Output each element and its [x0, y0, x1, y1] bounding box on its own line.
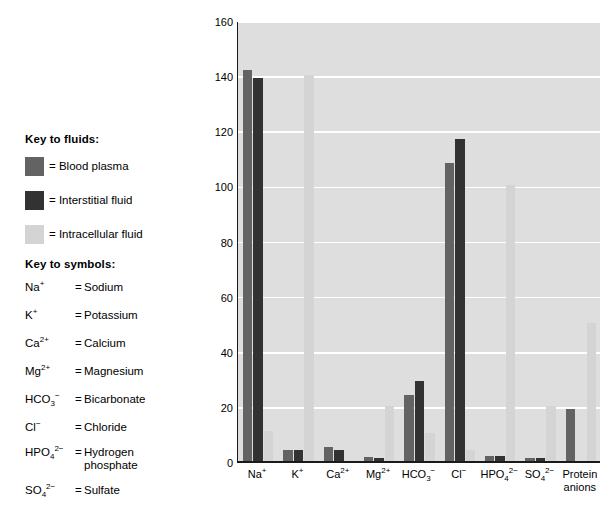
- legend-swatch-intracellular-fluid: [25, 225, 44, 244]
- symbol-row-bicarbonate: HCO3−=Bicarbonate: [25, 393, 190, 406]
- symbol-name: Potassium: [84, 309, 190, 322]
- bar: [485, 456, 495, 462]
- symbol-row-calcium: Ca2+=Calcium: [25, 337, 190, 350]
- x-tick-label: Proteinanions: [560, 468, 600, 493]
- symbol-name: Sulfate: [84, 484, 190, 497]
- y-tick-label: 60: [199, 292, 233, 304]
- x-tick-label: Ca2+: [318, 468, 358, 481]
- symbol-formula: K+: [25, 309, 75, 321]
- bar: [445, 163, 455, 461]
- gridline: [238, 187, 600, 189]
- symbol-equals: =: [75, 446, 84, 458]
- symbol-formula: SO42−: [25, 484, 75, 496]
- bar: [324, 447, 334, 461]
- y-tick-label: 40: [199, 347, 233, 359]
- x-tick-label: Na+: [237, 468, 277, 481]
- symbol-formula: HPO42−: [25, 446, 75, 458]
- y-axis-ticks: 020406080100120140160: [196, 22, 233, 463]
- x-tick-label: Mg2+: [358, 468, 398, 481]
- y-tick-label: 160: [199, 16, 233, 28]
- symbol-formula: Mg2+: [25, 365, 75, 377]
- bar: [506, 185, 516, 461]
- y-tick-label: 100: [199, 181, 233, 193]
- bar: [566, 409, 576, 461]
- symbol-equals: =: [75, 309, 84, 321]
- legend-label-blood-plasma: = Blood plasma: [49, 160, 129, 172]
- x-tick-label: Cl−: [439, 468, 479, 481]
- legend-swatch-interstitial-fluid: [25, 191, 44, 210]
- symbol-equals: =: [75, 337, 84, 349]
- symbol-name: Hydrogen phosphate: [84, 446, 190, 472]
- legend-item-interstitial-fluid: = Interstitial fluid: [25, 190, 132, 210]
- bar: [304, 75, 314, 461]
- symbol-formula: HCO3−: [25, 393, 75, 405]
- bar: [425, 433, 435, 461]
- gridline: [238, 352, 600, 354]
- bar: [283, 450, 293, 461]
- gridline: [238, 21, 600, 23]
- symbol-row-hydrogen-phosphate: HPO42−=Hydrogen phosphate: [25, 446, 190, 472]
- bar: [404, 395, 414, 461]
- symbol-equals: =: [75, 281, 84, 293]
- bar: [243, 70, 253, 461]
- plot-area: [237, 22, 600, 463]
- gridline: [238, 131, 600, 133]
- key-to-symbols-title: Key to symbols:: [25, 258, 115, 270]
- symbol-name: Sodium: [84, 281, 190, 294]
- y-tick-label: 0: [199, 457, 233, 469]
- legend-label-intracellular-fluid: = Intracellular fluid: [49, 228, 143, 240]
- symbol-equals: =: [75, 393, 84, 405]
- bar: [334, 450, 344, 461]
- bar: [525, 458, 535, 461]
- figure-root: Key to fluids: = Blood plasma= Interstit…: [0, 0, 608, 509]
- y-tick-label: 140: [199, 71, 233, 83]
- symbol-row-chloride: Cl−=Chloride: [25, 421, 190, 434]
- bar: [294, 450, 304, 461]
- bar: [385, 406, 395, 461]
- bar: [374, 458, 384, 461]
- symbol-row-potassium: K+=Potassium: [25, 309, 190, 322]
- bar: [466, 450, 476, 461]
- key-panel: Key to fluids: = Blood plasma= Interstit…: [0, 0, 196, 509]
- gridline: [238, 76, 600, 78]
- bar: [495, 456, 505, 462]
- legend-item-blood-plasma: = Blood plasma: [25, 156, 129, 176]
- symbol-row-magnesium: Mg2+=Magnesium: [25, 365, 190, 378]
- y-tick-label: 20: [199, 402, 233, 414]
- symbol-formula: Cl−: [25, 421, 75, 433]
- symbol-name: Chloride: [84, 421, 190, 434]
- legend-item-intracellular-fluid: = Intracellular fluid: [25, 224, 143, 244]
- x-tick-label: K+: [277, 468, 317, 481]
- bar: [546, 406, 556, 461]
- symbol-equals: =: [75, 484, 84, 496]
- bar: [455, 139, 465, 461]
- bar: [264, 431, 274, 461]
- y-tick-label: 120: [199, 126, 233, 138]
- symbol-row-sulfate: SO42−=Sulfate: [25, 484, 190, 497]
- bar: [253, 78, 263, 461]
- symbol-formula: Ca2+: [25, 337, 75, 349]
- bar: [587, 323, 597, 461]
- symbol-name: Calcium: [84, 337, 190, 350]
- bar: [415, 381, 425, 461]
- x-tick-label: HPO42−: [479, 468, 519, 481]
- key-to-fluids-title: Key to fluids:: [25, 133, 99, 145]
- symbol-name: Bicarbonate: [84, 393, 190, 406]
- bar: [364, 457, 374, 461]
- gridline: [238, 242, 600, 244]
- symbol-formula: Na+: [25, 281, 75, 293]
- x-tick-label: HCO3−: [398, 468, 438, 481]
- x-tick-label: SO42−: [519, 468, 559, 481]
- gridline: [238, 297, 600, 299]
- symbol-equals: =: [75, 421, 84, 433]
- y-tick-label: 80: [199, 237, 233, 249]
- bar-chart: Total solute concentration (mEq/L) 02040…: [196, 0, 608, 509]
- bar: [536, 458, 546, 461]
- legend-label-interstitial-fluid: = Interstitial fluid: [49, 194, 132, 206]
- symbol-name: Magnesium: [84, 365, 190, 378]
- symbol-row-sodium: Na+=Sodium: [25, 281, 190, 294]
- symbol-equals: =: [75, 365, 84, 377]
- legend-swatch-blood-plasma: [25, 157, 44, 176]
